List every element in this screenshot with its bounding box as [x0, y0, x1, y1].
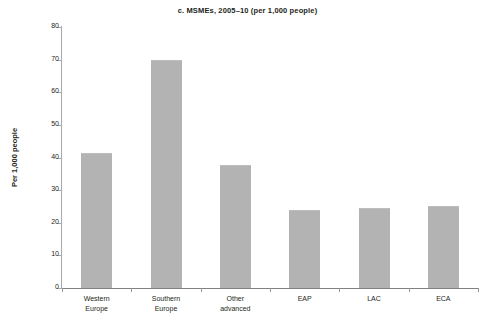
x-axis-category-label-line: advanced: [195, 304, 275, 314]
x-axis-category-label: EAP: [265, 294, 345, 304]
y-axis-tick-label: 40: [29, 153, 59, 160]
x-axis-category-label-line: LAC: [334, 294, 414, 304]
bar: [151, 60, 182, 288]
x-axis-category-label-line: Other: [195, 294, 275, 304]
x-axis-tick-mark: [201, 288, 202, 292]
x-axis-category-label-line: ECA: [403, 294, 483, 304]
x-axis-category-label-line: Europe: [57, 304, 137, 314]
x-axis-category-label-line: Western: [57, 294, 137, 304]
bar: [289, 210, 320, 288]
y-axis-tick-label: 60: [29, 87, 59, 94]
x-axis-tick-mark: [62, 288, 63, 292]
x-axis-category-label: Otheradvanced: [195, 294, 275, 313]
x-axis-category-label: SouthernEurope: [126, 294, 206, 313]
y-axis-tick-label: 50: [29, 120, 59, 127]
x-axis-tick-mark: [131, 288, 132, 292]
x-axis-category-label: ECA: [403, 294, 483, 304]
x-axis-category-label: WesternEurope: [57, 294, 137, 313]
y-axis-tick-label: 70: [29, 55, 59, 62]
x-axis-tick-mark: [478, 288, 479, 292]
y-axis-title: Per 1,000 people: [8, 27, 22, 288]
chart-figure: c. MSMEs, 2005–10 (per 1,000 people) Per…: [0, 0, 495, 336]
x-axis-category-label-line: EAP: [265, 294, 345, 304]
x-axis-category-label-line: Europe: [126, 304, 206, 314]
y-axis-tick-label: 10: [29, 250, 59, 257]
y-axis-tick-label: 0: [29, 283, 59, 290]
x-axis-category-label: LAC: [334, 294, 414, 304]
x-axis-category-label-line: Southern: [126, 294, 206, 304]
chart-title: c. MSMEs, 2005–10 (per 1,000 people): [0, 6, 495, 15]
y-axis-tick-label: 20: [29, 218, 59, 225]
y-axis-tick-label: 30: [29, 185, 59, 192]
x-axis-tick-mark: [409, 288, 410, 292]
bar: [428, 206, 459, 288]
y-axis-title-label: Per 1,000 people: [8, 27, 22, 288]
x-axis-tick-mark: [270, 288, 271, 292]
bar: [220, 165, 251, 288]
bar: [359, 208, 390, 288]
bar: [81, 153, 112, 288]
y-axis-tick-label: 80: [29, 22, 59, 29]
plot-area: 01020304050607080: [62, 27, 478, 288]
x-axis-tick-mark: [339, 288, 340, 292]
